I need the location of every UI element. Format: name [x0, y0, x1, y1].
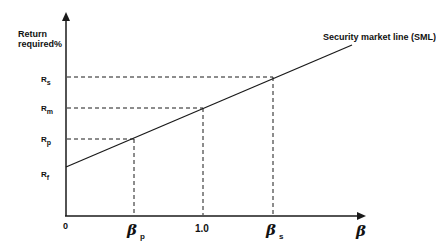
beta-s-label-sub: s — [279, 232, 283, 241]
y-axis-title-line1: Return — [18, 29, 62, 39]
rf-label-sub: f — [47, 174, 49, 181]
rp-label-sub: p — [47, 139, 51, 146]
beta-s-label-main: β — [266, 221, 276, 239]
x-axis-arrow-icon — [357, 212, 366, 220]
x-axis-title: β — [356, 222, 366, 240]
y-axis-title-line2: required% — [18, 39, 62, 49]
rs-label: Rs — [41, 75, 51, 86]
rs-label-sub: s — [47, 79, 51, 86]
beta-p-label-main: β — [127, 221, 137, 239]
rm-label: Rm — [41, 104, 53, 115]
sml-label: Security market line (SML) — [323, 32, 436, 42]
rf-label: Rf — [41, 170, 49, 181]
y-axis-arrow-icon — [62, 12, 70, 21]
rm-label-sub: m — [47, 108, 53, 115]
beta-one-label: 1.0 — [195, 223, 209, 234]
rp-label: Rp — [41, 135, 51, 146]
beta-p-label-sub: p — [140, 232, 145, 241]
beta-s-label: βs — [266, 221, 283, 241]
sml-diagram: Return required% Rs Rm Rp Rf 0 βp 1.0 βs… — [0, 0, 436, 245]
y-axis-title: Return required% — [18, 29, 62, 49]
origin-label: 0 — [63, 221, 68, 231]
beta-p-label: βp — [127, 221, 145, 241]
security-market-line — [66, 45, 352, 167]
